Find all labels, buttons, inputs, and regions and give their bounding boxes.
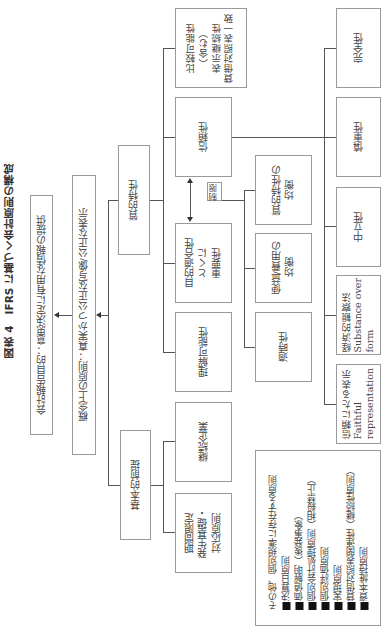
bullet-square-icon: [282, 602, 290, 610]
list-item: 個別評価原則: [318, 466, 331, 610]
list-item: 個別会計処理原則（相殺禁止）: [305, 466, 318, 610]
completeness-box: 完全性: [336, 8, 381, 88]
connector-line: [163, 532, 175, 533]
list-item: 貸借対照表関連性（継続性原則）: [344, 466, 357, 610]
connector-line: [163, 352, 175, 353]
connector-line: [163, 48, 175, 49]
bullet-square-icon: [360, 602, 368, 610]
figure-title: 図表 4 IFRS に基づく会計原則の構成: [2, 128, 16, 393]
connector-line: [222, 200, 244, 201]
connector-line: [232, 137, 324, 138]
list-item: 決算日原則: [279, 466, 292, 610]
branch-line: [163, 441, 164, 533]
list-item: 資本維持原則: [357, 466, 370, 610]
list-item: 実現原則: [331, 466, 344, 610]
arrow-head-icon: [96, 312, 101, 318]
concept-box: 概念上の原則：真実かつ公正な写像/公正な表示: [72, 175, 96, 455]
other-principles-box: その他、個別規準に存在する原則 決算日原則 価値解明（後発事象） 個別会計処理原…: [255, 450, 381, 626]
list-item: 価値解明（後発事象）: [292, 466, 305, 610]
faithful-representation-box: 信頼にたる表示 Faithful representation: [336, 364, 381, 444]
bullet-square-icon: [347, 602, 355, 610]
bullet-square-icon: [321, 602, 329, 610]
trunk-line: [108, 200, 109, 486]
prudence-box: 慎重性: [336, 97, 381, 177]
comparability-box: 比較可能性 （含む） 表示継続性 貸借対照表一致: [175, 8, 247, 88]
connector-line: [163, 441, 175, 442]
connector-line: [324, 404, 336, 405]
objective-box: 会計報告目的：意思決定に有用な情報の提供: [30, 195, 53, 435]
connector-line: [150, 200, 163, 201]
connector-line: [151, 485, 163, 486]
double-arrow-line: [190, 182, 191, 219]
connector-line: [244, 268, 255, 269]
neutrality-box: 中立性: [336, 187, 381, 267]
connector-line: [244, 190, 255, 191]
connector-line: [163, 263, 175, 264]
understandability-box: 理解可能性: [175, 312, 232, 392]
connector-line: [58, 315, 72, 316]
connector-line: [324, 226, 336, 227]
going-concern-box: 継続企業: [175, 402, 232, 482]
connector-line: [163, 137, 175, 138]
connector-line: [324, 137, 336, 138]
bullet-square-icon: [295, 602, 303, 610]
connector-line: [324, 315, 336, 316]
branch-line: [163, 48, 164, 353]
underlying-assumptions-box: 基本的前提: [120, 430, 151, 540]
connector-line: [324, 48, 336, 49]
connector-line: [244, 347, 255, 348]
reliability-box: 信頼性: [175, 97, 232, 177]
arrow-up-icon: [187, 178, 193, 183]
connector-line: [100, 315, 108, 316]
qualitative-balance-box: 質的特性の 均衡: [255, 155, 312, 225]
accrual-box: 期間限定 発生基礎・ 対応原則: [175, 493, 232, 573]
connector-line: [108, 485, 120, 486]
bullet-square-icon: [308, 602, 316, 610]
constraint-label-box: 制限: [207, 182, 222, 201]
arrow-head-icon: [54, 312, 59, 318]
timeliness-box: 適時性: [255, 312, 312, 382]
relevance-box: 目的適合性 とくに 重要性: [175, 223, 232, 303]
arrow-down-icon: [187, 217, 193, 222]
bullet-square-icon: [334, 602, 342, 610]
qualitative-characteristics-box: 質的特性: [118, 145, 150, 255]
other-principles-heading: その他、個別規準に存在する原則: [266, 466, 279, 610]
cost-benefit-box: 便益/費用の 均衡: [255, 233, 312, 303]
substance-over-form-box: 経済的観察法 Substance over form: [336, 275, 381, 355]
